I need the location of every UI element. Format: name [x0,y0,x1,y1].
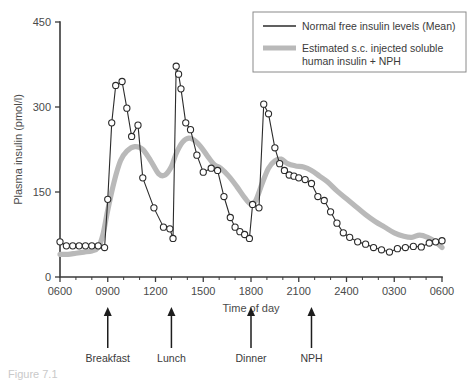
data-point-marker [129,133,135,139]
y-tick-label: 300 [33,101,51,113]
annotation-breakfast: Breakfast [86,307,130,364]
x-tick-label: 0900 [96,285,120,297]
data-point-marker [221,193,227,199]
data-point-marker [140,175,146,181]
data-point-marker [347,234,353,240]
data-point-marker [277,161,283,167]
data-point-marker [151,205,157,211]
data-point-marker [334,220,340,226]
y-tick-label: 150 [33,186,51,198]
data-point-marker [433,239,439,245]
data-point-marker [183,120,189,126]
data-point-marker [178,86,184,92]
data-point-marker [308,180,314,186]
data-point-marker [173,63,179,69]
data-point-marker [175,71,181,77]
data-point-marker [302,176,308,182]
data-point-marker [167,226,173,232]
data-point-marker [109,120,115,126]
data-point-marker [76,243,82,249]
data-point-marker [57,239,63,245]
up-arrow-icon [104,307,112,316]
legend: Normal free insulin levels (Mean)Estimat… [253,12,466,72]
figure-caption: Figure 7.1 [8,368,58,380]
data-point-marker [265,111,271,117]
data-point-marker [261,101,267,107]
data-point-marker [160,224,166,230]
data-point-marker [101,244,107,250]
data-point-marker [249,201,255,207]
x-tick-label: 0600 [48,285,72,297]
x-tick-label: 0600 [430,285,454,297]
data-point-marker [418,244,424,250]
x-tick-label: 1500 [191,285,215,297]
annotation-label: Lunch [157,352,186,364]
data-point-marker [63,243,69,249]
data-point-marker [113,82,119,88]
legend-label-normal: Normal free insulin levels (Mean) [302,20,455,32]
data-point-marker [70,243,76,249]
data-point-marker [170,235,176,241]
up-arrow-icon [167,307,175,316]
annotation-label: NPH [300,352,322,364]
data-point-marker [315,193,321,199]
x-tick-label: 1200 [143,285,167,297]
annotation-nph: NPH [300,307,322,364]
data-point-marker [208,165,214,171]
data-point-marker [214,167,220,173]
data-point-marker [124,105,130,111]
y-tick-label: 0 [45,271,51,283]
data-point-marker [105,196,111,202]
data-point-marker [200,169,206,175]
data-point-marker [227,214,233,220]
x-tick-label: 1800 [239,285,263,297]
annotation-lunch: Lunch [157,307,186,364]
data-point-marker [296,175,302,181]
legend-label-estimated-line1: Estimated s.c. injected soluble [302,42,443,54]
data-point-marker [135,122,141,128]
data-point-marker [82,243,88,249]
data-point-marker [426,240,432,246]
annotation-dinner: Dinner [236,307,267,364]
data-point-marker [321,197,327,203]
data-point-marker [394,246,400,252]
data-point-marker [402,244,408,250]
data-point-marker [246,235,252,241]
data-point-marker [363,241,369,247]
data-point-marker [187,127,193,133]
data-point-marker [370,244,376,250]
legend-label-estimated-line2: human insulin + NPH [302,55,401,67]
data-point-marker [378,247,384,253]
data-point-marker [439,238,445,244]
data-point-marker [119,78,125,84]
y-axis-title: Plasma insulin (pmol/l) [12,94,24,205]
annotation-label: Dinner [236,352,267,364]
data-point-marker [89,243,95,249]
data-point-marker [256,205,262,211]
x-tick-label: 2400 [334,285,358,297]
data-point-marker [386,249,392,255]
y-axis: 0150300450Plasma insulin (pmol/l) [12,16,60,283]
data-point-marker [327,209,333,215]
data-point-marker [340,230,346,236]
annotation-label: Breakfast [86,352,130,364]
y-tick-label: 450 [33,16,51,28]
data-point-marker [95,243,101,249]
x-tick-label: 0300 [382,285,406,297]
up-arrow-icon [307,307,315,316]
data-point-marker [355,239,361,245]
data-point-marker [194,152,200,158]
data-point-marker [410,243,416,249]
meal-annotations: BreakfastLunchDinnerNPH [86,307,323,364]
data-point-marker [272,145,278,151]
x-tick-label: 2100 [287,285,311,297]
